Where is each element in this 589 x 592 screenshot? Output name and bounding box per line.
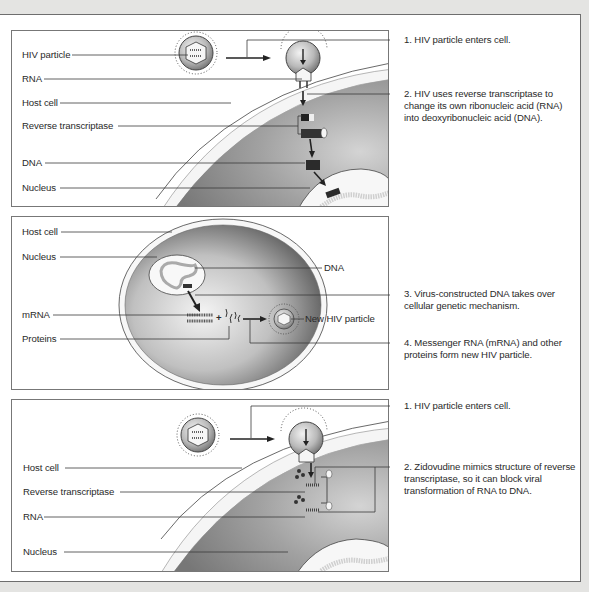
label-hiv-particle: HIV particle [22, 49, 70, 61]
panel2-illustration [12, 217, 389, 390]
label-dna: DNA [22, 157, 42, 169]
panel-viral-replication [11, 216, 389, 390]
label-host-cell: Host cell [23, 462, 59, 474]
step-2-note: 2. HIV uses reverse transcriptase to cha… [404, 88, 570, 125]
step-1-note: 1. HIV particle enters cell. [404, 400, 589, 412]
label-reverse-transcriptase: Reverse transcriptase [22, 120, 113, 132]
label-new-hiv-particle: New HIV particle [305, 313, 375, 325]
label-rna: RNA [22, 73, 42, 85]
label-mrna: mRNA [22, 309, 50, 321]
label-dna: DNA [324, 262, 344, 274]
plus-sign: + [216, 312, 222, 324]
label-nucleus: Nucleus [23, 546, 57, 558]
step-1-note: 1. HIV particle enters cell. [404, 34, 589, 46]
step-3-note: 3. Virus-constructed DNA takes over cell… [404, 288, 564, 312]
step-2-zidovudine-note: 2. Zidovudine mimics structure of revers… [404, 461, 576, 498]
label-nucleus: Nucleus [22, 251, 56, 263]
label-nucleus: Nucleus [22, 182, 56, 194]
label-rna: RNA [23, 511, 43, 523]
hiv-particle-icon [175, 32, 217, 74]
label-host-cell: Host cell [22, 97, 58, 109]
label-proteins: Proteins [22, 333, 56, 345]
label-host-cell: Host cell [22, 226, 58, 238]
label-reverse-transcriptase: Reverse transcriptase [23, 486, 114, 498]
hiv-particle-icon [177, 414, 219, 456]
entering-hiv-particle-icon [281, 31, 327, 88]
step-4-note: 4. Messenger RNA (mRNA) and other protei… [404, 337, 569, 361]
